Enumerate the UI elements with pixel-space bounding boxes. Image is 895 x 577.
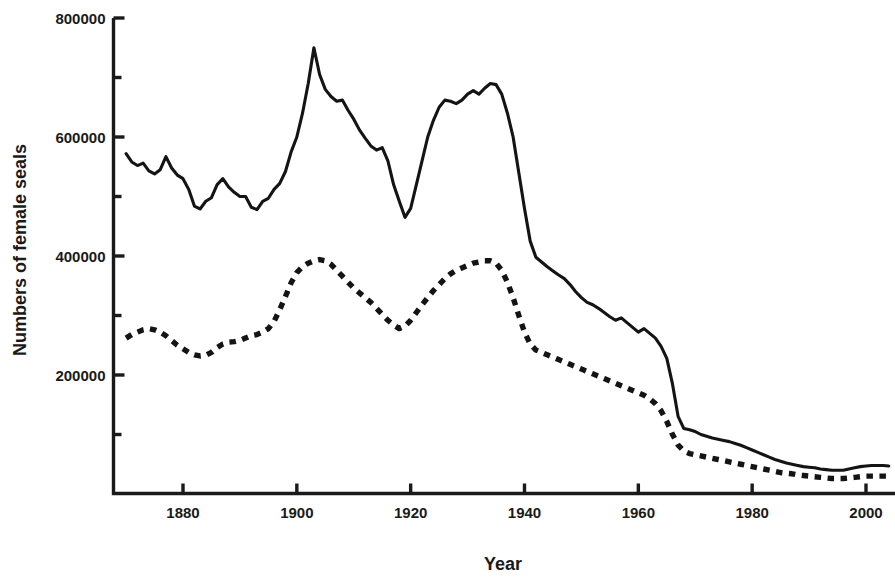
x-axis-title: Year — [484, 554, 522, 574]
y-axis-title: Numbers of female seals — [10, 144, 30, 356]
chart-background — [0, 0, 895, 577]
x-tick-label: 1960 — [622, 504, 655, 521]
chart-container: 200000400000600000800000 188019001920194… — [0, 0, 895, 577]
x-tick-label: 1880 — [166, 504, 199, 521]
x-tick-label: 1980 — [735, 504, 768, 521]
y-tick-label: 800000 — [55, 10, 105, 27]
x-tick-label: 1940 — [508, 504, 541, 521]
x-tick-label: 2000 — [849, 504, 882, 521]
x-tick-label: 1900 — [280, 504, 313, 521]
x-tick-label: 1920 — [394, 504, 427, 521]
y-tick-label: 400000 — [55, 248, 105, 265]
y-tick-label: 600000 — [55, 129, 105, 146]
seal-population-line-chart: 200000400000600000800000 188019001920194… — [0, 0, 895, 577]
y-tick-label: 200000 — [55, 367, 105, 384]
